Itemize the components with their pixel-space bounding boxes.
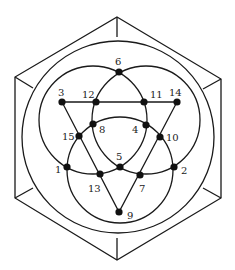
node-8 [89, 120, 96, 127]
node-label-1: 1 [55, 164, 61, 175]
node-label-10: 10 [166, 132, 179, 143]
node-5 [116, 163, 123, 170]
node-label-7: 7 [139, 183, 145, 194]
hexagon-corner-line [15, 77, 33, 88]
node-label-13: 13 [88, 183, 101, 194]
node-label-9: 9 [127, 210, 133, 221]
hexagon-corner-line [15, 188, 33, 198]
node-6 [115, 68, 122, 75]
diagram-container: 123456789101112131415 [0, 0, 235, 270]
node-label-4: 4 [132, 124, 138, 135]
node-15 [75, 132, 82, 139]
node-2 [170, 163, 177, 170]
node-1 [63, 163, 70, 170]
node-7 [136, 171, 143, 178]
graph-diagram: 123456789101112131415 [0, 0, 235, 270]
node-11 [140, 98, 147, 105]
hexagon-corner-line [203, 188, 221, 198]
node-label-14: 14 [169, 87, 182, 98]
node-label-12: 12 [82, 89, 95, 100]
node-14 [173, 98, 180, 105]
node-label-3: 3 [58, 87, 64, 98]
node-9 [115, 208, 122, 215]
node-3 [58, 98, 65, 105]
node-label-11: 11 [150, 89, 163, 100]
node-13 [96, 170, 103, 177]
circle-upper-right [92, 66, 200, 174]
node-label-15: 15 [62, 131, 75, 142]
node-label-8: 8 [99, 124, 105, 135]
node-labels: 123456789101112131415 [55, 56, 187, 221]
node-10 [156, 133, 163, 140]
circle-upper-left [39, 66, 147, 174]
node-4 [142, 121, 149, 128]
node-label-2: 2 [181, 165, 187, 176]
node-label-5: 5 [116, 151, 122, 162]
node-label-6: 6 [115, 56, 121, 67]
hexagon-corner-line [203, 79, 221, 89]
